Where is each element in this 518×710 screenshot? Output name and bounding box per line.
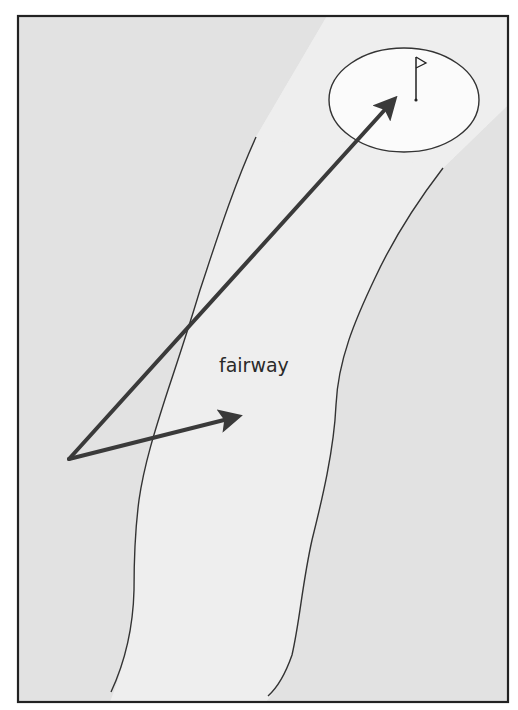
golf-hole-diagram: fairway: [0, 0, 518, 710]
putting-green: [329, 48, 479, 152]
fairway-label: fairway: [219, 354, 289, 376]
